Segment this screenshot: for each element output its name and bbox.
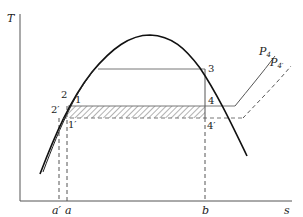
saturation-dome [40, 35, 247, 174]
tick-a-prime: a′ [52, 204, 62, 217]
hatched-area [68, 106, 205, 118]
tick-a: a [65, 204, 72, 217]
isobar-p4-label: P4 [258, 45, 271, 59]
state-1: 1 [75, 94, 81, 105]
state-4-prime: 4′ [207, 120, 216, 131]
ts-diagram: T s a′ a b 2 1 2′ 1′ 3 4 4′ P4 P4′ [0, 0, 303, 217]
state-4: 4 [208, 95, 214, 106]
isobar-p4-prime-label: P4′ [269, 56, 284, 70]
t-axis-label: T [7, 12, 16, 25]
isobar-p4 [235, 56, 275, 106]
state-2-prime: 2′ [51, 104, 60, 115]
state-1-prime: 1′ [68, 119, 77, 130]
state-3: 3 [208, 63, 214, 74]
s-axis-label: s [284, 204, 290, 217]
tick-b: b [202, 204, 209, 217]
state-2: 2 [61, 89, 67, 100]
isobar-p4-prime [243, 66, 291, 118]
